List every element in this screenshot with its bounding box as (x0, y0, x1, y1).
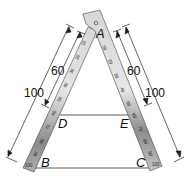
dimension-label-left-100: 100 (24, 86, 44, 100)
point-label-c: C (136, 155, 146, 170)
point-label-d: D (58, 116, 67, 131)
dimension-label-right-100: 100 (145, 86, 165, 100)
tick-label: 100 (25, 163, 33, 168)
similar-triangles-diagram: 10 20 30 40 50 60 70 80 90 100 10 20 30 … (0, 0, 191, 180)
dimension-label-right-60: 60 (127, 64, 141, 78)
tick-label: 100 (152, 162, 160, 167)
point-label-a: A (95, 26, 105, 41)
dimension-label-left-60: 60 (51, 64, 65, 78)
point-label-b: B (41, 155, 50, 170)
point-label-e: E (120, 116, 129, 131)
